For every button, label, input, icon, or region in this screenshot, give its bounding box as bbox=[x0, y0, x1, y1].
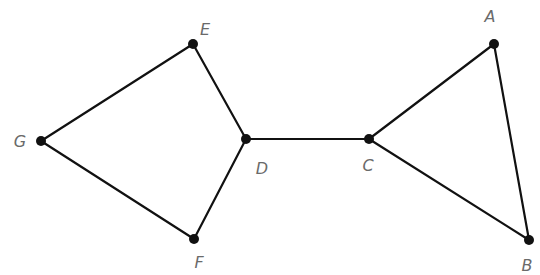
node-f bbox=[189, 234, 199, 244]
edge-g-f bbox=[41, 141, 194, 239]
edge-f-d bbox=[194, 139, 246, 239]
edges bbox=[41, 44, 529, 240]
node-b bbox=[524, 235, 534, 245]
edge-c-a bbox=[369, 44, 494, 139]
node-label-d: D bbox=[256, 159, 268, 178]
node-e bbox=[188, 39, 198, 49]
edge-e-d bbox=[193, 44, 246, 139]
labels: ABCDEFG bbox=[14, 7, 533, 275]
node-c bbox=[364, 134, 374, 144]
node-label-f: F bbox=[194, 253, 204, 272]
edge-g-e bbox=[41, 44, 193, 141]
node-label-a: A bbox=[484, 7, 496, 26]
edge-c-b bbox=[369, 139, 529, 240]
edge-a-b bbox=[494, 44, 529, 240]
graph-diagram: ABCDEFG bbox=[0, 0, 540, 275]
node-label-g: G bbox=[14, 132, 26, 151]
node-label-b: B bbox=[522, 256, 533, 275]
node-d bbox=[241, 134, 251, 144]
node-a bbox=[489, 39, 499, 49]
node-g bbox=[36, 136, 46, 146]
node-label-e: E bbox=[200, 20, 211, 39]
node-label-c: C bbox=[362, 156, 374, 175]
